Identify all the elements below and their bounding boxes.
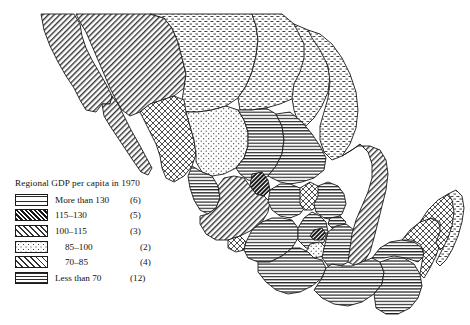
legend-swatch-dash-dot xyxy=(15,194,48,206)
legend-label: 100–115 xyxy=(55,226,130,236)
legend-label: 85–100 xyxy=(55,242,140,252)
legend-item-more-than-130: More than 130 (6) xyxy=(15,192,195,208)
legend-swatch-horizontal-line xyxy=(15,272,48,284)
legend-swatch-diagonal-hatch xyxy=(15,225,48,237)
map-legend: Regional GDP per capita in 1970 More tha… xyxy=(15,178,195,286)
legend-count: (12) xyxy=(130,273,145,283)
legend-label: More than 130 xyxy=(55,195,130,205)
legend-label: Less than 70 xyxy=(55,273,130,283)
legend-count: (2) xyxy=(140,242,151,252)
state-hidalgo xyxy=(314,182,346,220)
legend-swatch-dense-hatch xyxy=(15,209,48,221)
legend-count: (3) xyxy=(130,226,141,236)
legend-count: (4) xyxy=(140,257,151,267)
legend-item-100-115: 100–115 (3) xyxy=(15,223,195,239)
legend-count: (6) xyxy=(130,195,141,205)
legend-item-less-than-70: Less than 70 (12) xyxy=(15,270,195,286)
legend-label: 115–130 xyxy=(55,210,130,220)
legend-item-85-100: 85–100 (2) xyxy=(15,239,195,255)
legend-label: 70–85 xyxy=(55,257,140,267)
legend-swatch-cross-hatch xyxy=(15,256,48,268)
legend-title: Regional GDP per capita in 1970 xyxy=(15,178,195,188)
legend-count: (5) xyxy=(130,210,141,220)
legend-item-115-130: 115–130 (5) xyxy=(15,208,195,224)
legend-swatch-stipple xyxy=(15,241,48,253)
legend-item-70-85: 70–85 (4) xyxy=(15,254,195,270)
